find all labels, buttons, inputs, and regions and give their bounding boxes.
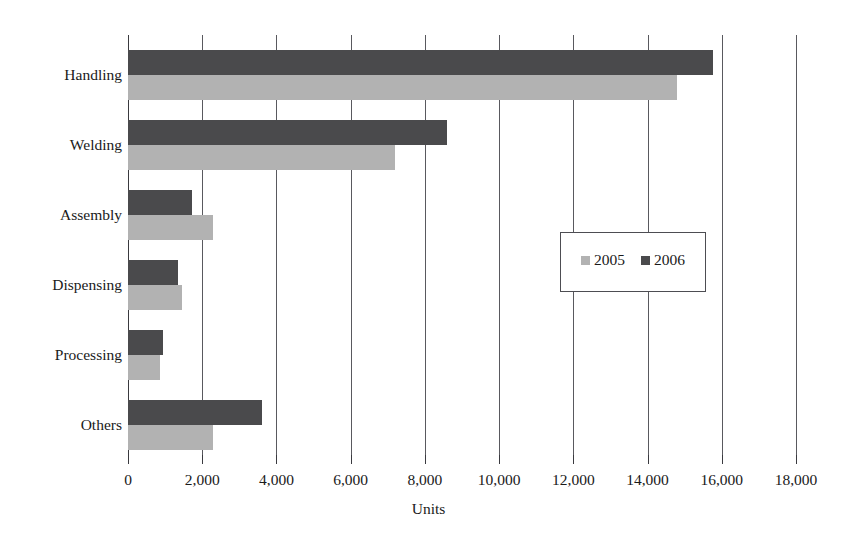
category-label: Others	[4, 417, 122, 433]
x-tick-label: 2,000	[185, 470, 220, 490]
tick-mark-2000	[202, 455, 203, 464]
legend: 20052006	[560, 232, 706, 292]
bar-chart: HandlingWeldingAssemblyDispensingProcess…	[0, 0, 847, 550]
bar-group	[128, 330, 796, 380]
tick-mark-10000	[499, 455, 500, 464]
x-tick-label: 16,000	[700, 470, 743, 490]
bar-2006	[128, 120, 447, 145]
legend-label: 2005	[594, 252, 625, 268]
x-tick-label: 0	[124, 470, 132, 490]
bar-group	[128, 50, 796, 100]
tick-mark-12000	[573, 455, 574, 464]
x-tick-label: 12,000	[552, 470, 595, 490]
legend-label: 2006	[654, 252, 685, 268]
bar-2005	[128, 145, 395, 170]
x-axis-title: Units	[0, 500, 847, 518]
x-tick-label: 18,000	[775, 470, 818, 490]
bar-2005	[128, 75, 677, 100]
bar-2005	[128, 425, 213, 450]
category-label: Processing	[4, 347, 122, 363]
x-tick-label: 4,000	[259, 470, 294, 490]
bar-2005	[128, 285, 182, 310]
bar-group	[128, 400, 796, 450]
tick-mark-16000	[722, 455, 723, 464]
x-tick-label: 6,000	[333, 470, 368, 490]
gridline-18000	[796, 35, 797, 455]
legend-item: 2005	[581, 252, 625, 268]
x-tick-label: 14,000	[626, 470, 669, 490]
bar-group	[128, 120, 796, 170]
bar-2005	[128, 215, 213, 240]
bar-2006	[128, 260, 178, 285]
bar-2006	[128, 400, 262, 425]
tick-mark-6000	[351, 455, 352, 464]
tick-mark-14000	[648, 455, 649, 464]
tick-mark-4000	[276, 455, 277, 464]
bar-2006	[128, 330, 163, 355]
category-axis-labels: HandlingWeldingAssemblyDispensingProcess…	[0, 35, 122, 455]
tick-mark-8000	[425, 455, 426, 464]
category-label: Dispensing	[4, 277, 122, 293]
x-axis-title-text: Units	[412, 500, 446, 517]
x-tick-label: 8,000	[407, 470, 442, 490]
legend-item: 2006	[641, 252, 685, 268]
legend-swatch-icon	[641, 256, 650, 265]
tick-mark-0	[128, 455, 129, 464]
x-axis-tick-labels: 02,0004,0006,0008,00010,00012,00014,0001…	[0, 470, 847, 494]
tick-mark-18000	[796, 455, 797, 464]
category-label: Welding	[4, 137, 122, 153]
bar-2006	[128, 190, 192, 215]
x-tick-label: 10,000	[478, 470, 521, 490]
bar-2006	[128, 50, 713, 75]
legend-items: 20052006	[561, 252, 705, 268]
bar-2005	[128, 355, 160, 380]
legend-swatch-icon	[581, 256, 590, 265]
category-label: Assembly	[4, 207, 122, 223]
category-label: Handling	[4, 67, 122, 83]
